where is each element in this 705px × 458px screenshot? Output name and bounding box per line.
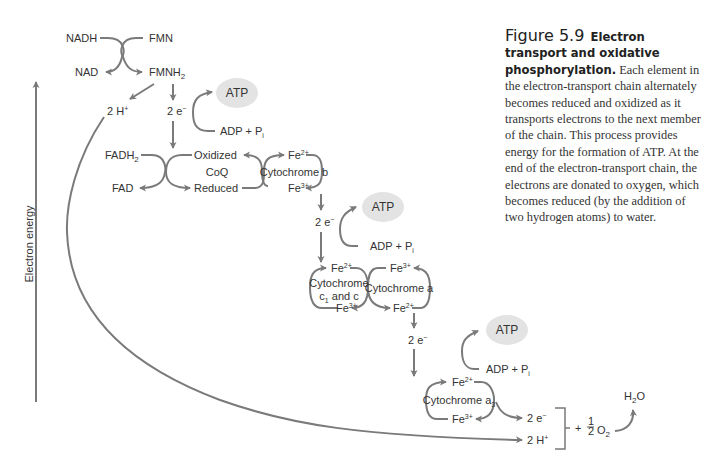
label-fmn: FMN	[149, 32, 173, 44]
label-2e-1: 2 e−	[167, 105, 186, 117]
label-fmnh2: FMNH2	[149, 66, 186, 81]
adp-to-atp-arc-1	[193, 92, 215, 131]
atp-label-1: ATP	[226, 86, 248, 100]
label-adp-pi-1: ADP + Pi	[220, 125, 264, 139]
adp-to-atp-arc-2	[340, 207, 358, 246]
label-half-denominator: 2	[588, 425, 594, 437]
label-nad: NAD	[75, 66, 98, 78]
label-cytochrome-c-line1: Cytochrome	[309, 277, 368, 289]
label-coq: CoQ	[206, 166, 229, 178]
label-cytb-fe2: Fe2+	[288, 149, 309, 161]
label-2e-3: 2 e−	[408, 334, 427, 346]
fmn-to-fmnh2-arrow	[121, 38, 143, 72]
label-coq-reduced: Reduced	[194, 182, 238, 194]
o2-to-h2o-arrow	[615, 410, 633, 431]
label-coq-oxidized: Oxidized	[194, 149, 237, 161]
label-h2o: H2O	[624, 390, 645, 405]
label-cytc-fe3: Fe3+	[336, 302, 357, 314]
label-cytc-fe2: Fe2+	[331, 262, 352, 274]
bracket	[555, 408, 570, 449]
label-nadh: NADH	[66, 32, 97, 44]
atp-label-3: ATP	[496, 323, 518, 337]
label-2h-top: 2 H+	[107, 105, 128, 117]
label-fad: FAD	[112, 182, 133, 194]
figure-number: Figure 5.9	[505, 26, 584, 45]
fmnh2-to-h-arrow	[130, 84, 154, 99]
label-adp-pi-2: ADP + Pi	[370, 240, 414, 254]
adp-to-atp-arc-3	[462, 331, 479, 369]
label-cytochrome-a: Cytochrome a	[365, 282, 434, 294]
label-2h-final: 2 H+	[527, 434, 548, 446]
label-o2: O2	[597, 424, 611, 439]
label-cytochrome-b: Cytochrome b	[260, 166, 328, 178]
label-cytb-fe3: Fe3+	[288, 182, 309, 194]
label-2e-2: 2 e−	[315, 216, 334, 228]
fadh2-to-fad-arrow	[140, 155, 165, 188]
oxidized-to-reduced-arrow	[166, 155, 192, 188]
label-cytochrome-a3: Cytochrome a3	[423, 394, 495, 408]
nadh-to-nad-arrow	[100, 38, 124, 72]
figure-caption-body: Each element in the electron-transport c…	[505, 63, 701, 225]
label-cyta-fe3: Fe3+	[390, 262, 411, 274]
label-2e-final: 2 e−	[527, 412, 546, 424]
label-cyta-fe2: Fe2+	[393, 302, 414, 314]
cyta3-to-e-final-arrow	[496, 402, 522, 418]
axis-label-electron-energy: Electron energy	[23, 205, 35, 283]
figure-caption: Figure 5.9 Electron transport and oxidat…	[505, 28, 703, 226]
label-adp-pi-3: ADP + Pi	[486, 363, 530, 377]
label-plus: +	[575, 422, 581, 434]
atp-label-2: ATP	[372, 200, 394, 214]
label-cyta3-fe2: Fe2+	[452, 376, 473, 388]
label-fadh2: FADH2	[105, 149, 139, 164]
label-cyta3-fe3: Fe3+	[452, 413, 473, 425]
